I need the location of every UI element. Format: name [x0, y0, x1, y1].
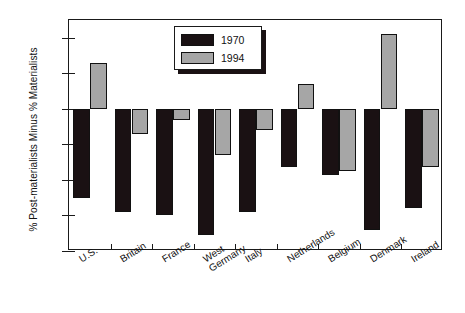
bar-west-germany-1994: [215, 109, 232, 155]
bar-belgium-1994: [339, 109, 356, 171]
y-tick-mark: [62, 73, 69, 74]
legend-entry-1970[interactable]: 1970: [181, 32, 255, 47]
bar-britain-1970: [115, 109, 132, 212]
bar-ireland-1970: [405, 109, 422, 209]
bar-italy-1994: [256, 109, 273, 130]
y-tick-mark: [62, 215, 69, 216]
y-tick-mark-inner: [69, 215, 75, 216]
bar-britain-1994: [132, 109, 149, 134]
x-tick-mark: [152, 244, 153, 249]
legend-label-1970: 1970: [221, 34, 244, 46]
y-tick-mark: [62, 180, 69, 181]
bar-netherlands-1970: [281, 109, 298, 168]
chart-legend: 1970 1994: [174, 26, 262, 70]
bar-france-1970: [156, 109, 173, 216]
y-tick-mark-inner: [69, 251, 75, 252]
x-tick-mark: [194, 244, 195, 249]
bar-italy-1970: [239, 109, 256, 212]
chart-figure: % Post-materialists Minus % Materialists…: [0, 0, 465, 313]
legend-swatch-1994-icon: [181, 52, 214, 64]
bar-belgium-1970: [322, 109, 339, 175]
bar-u-s--1970: [73, 109, 90, 198]
y-tick-mark-inner: [69, 38, 75, 39]
x-tick-mark: [277, 244, 278, 249]
legend-swatch-1970-icon: [181, 34, 214, 46]
x-tick-mark: [111, 244, 112, 249]
bar-denmark-1994: [381, 34, 398, 109]
bar-netherlands-1994: [298, 84, 315, 109]
bar-france-1994: [173, 109, 190, 120]
y-tick-mark: [62, 144, 69, 145]
bar-west-germany-1970: [198, 109, 215, 235]
y-tick-mark: [62, 109, 69, 110]
bar-ireland-1994: [422, 109, 439, 168]
y-tick-mark: [62, 251, 69, 252]
y-tick-mark-inner: [69, 73, 75, 74]
y-axis-title: % Post-materialists Minus % Materialists: [28, 15, 39, 265]
legend-entry-1994[interactable]: 1994: [181, 50, 255, 65]
legend-label-1994: 1994: [221, 52, 244, 64]
bar-denmark-1970: [364, 109, 381, 230]
bar-u-s--1994: [90, 63, 107, 109]
y-tick-mark: [62, 38, 69, 39]
